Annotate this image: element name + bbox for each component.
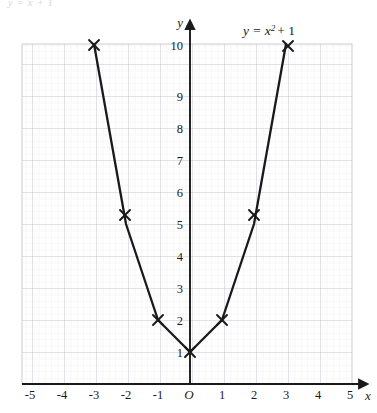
curve-equation-exponent: 2 — [271, 23, 276, 33]
y-tick-label: 1 — [177, 346, 183, 360]
y-tick-label: 10 — [171, 39, 184, 53]
x-axis-name: x — [364, 388, 371, 403]
x-tick-label: 5 — [347, 388, 353, 402]
x-tick-label: 3 — [283, 388, 289, 402]
y-tick-label: 5 — [177, 218, 183, 232]
y-tick-label: 2 — [177, 314, 183, 328]
y-tick-label: 4 — [177, 250, 184, 264]
curve-equation-label: y = x2+ 1 — [241, 23, 295, 38]
y-tick-label: 9 — [177, 90, 183, 104]
curve-equation-base: y = x — [241, 23, 271, 38]
x-tick-label: 4 — [315, 388, 322, 402]
graph-canvas: -5 -4 -3 -2 -1 O 1 2 3 4 5 x 1 2 3 4 5 6… — [0, 0, 377, 413]
x-tick-label: -5 — [25, 388, 35, 402]
y-tick-label: 8 — [177, 122, 183, 136]
x-tick-label: 1 — [219, 388, 225, 402]
x-tick-labels: -5 -4 -3 -2 -1 O 1 2 3 4 5 x — [25, 387, 371, 403]
origin-label: O — [184, 387, 194, 402]
y-tick-label: 7 — [177, 154, 183, 168]
grid-paper — [22, 44, 352, 384]
x-tick-label: -1 — [153, 388, 163, 402]
curve-equation-tail: + 1 — [277, 23, 295, 38]
y-axis-name: y — [175, 15, 183, 30]
x-tick-label: 2 — [251, 388, 257, 402]
x-tick-label: -4 — [57, 388, 68, 402]
y-tick-label: 6 — [177, 186, 183, 200]
graph-page: y = x + 1 — [0, 0, 377, 413]
x-tick-label: -3 — [89, 388, 99, 402]
x-tick-label: -2 — [121, 388, 131, 402]
y-tick-label: 3 — [177, 282, 183, 296]
